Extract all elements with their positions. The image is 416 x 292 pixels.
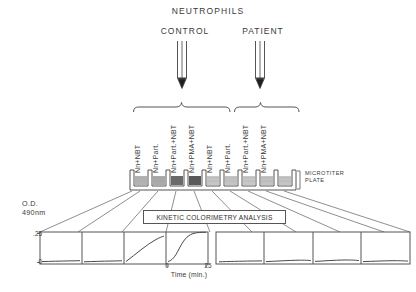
condition-label-patient-part: Nn+Part. bbox=[224, 144, 231, 173]
condition-label-control-pma-nbt: Nn+PMA+NBT bbox=[188, 125, 195, 173]
pipette-control bbox=[178, 41, 187, 89]
well-fill-control-2 bbox=[153, 176, 165, 185]
od-axis-line-2: 490nm bbox=[22, 209, 45, 218]
microtiter-plate-label: MICROTITER PLATE bbox=[305, 170, 344, 184]
plate-label-bracket bbox=[297, 171, 300, 189]
od-axis-label: O.D. 490nm bbox=[22, 200, 45, 217]
x-tick-label-25: 25 bbox=[201, 262, 215, 269]
well-fill-patient-1 bbox=[207, 176, 219, 185]
x-axis-title: Time (min.) bbox=[154, 271, 224, 278]
well-fill-control-3 bbox=[171, 176, 183, 185]
kinetic-box-label: KINETIC COLORIMETRY ANALYSIS bbox=[156, 214, 272, 221]
condition-label-control-part-nbt: Nn+Part.+NBT bbox=[170, 125, 177, 173]
panel-group-patient bbox=[216, 232, 410, 264]
panel-group-control bbox=[40, 232, 208, 264]
microtiter-plate bbox=[130, 170, 296, 190]
condition-label-control-part: Nn+Part. bbox=[152, 144, 159, 173]
plate-label-line-2: PLATE bbox=[305, 177, 344, 184]
y-tick-label-upper: .25 bbox=[24, 230, 42, 237]
plate-label-line-1: MICROTITER bbox=[305, 170, 344, 177]
pipette-patient bbox=[256, 41, 265, 89]
well-fill-control-1 bbox=[135, 176, 147, 185]
condition-label-patient-nbt: Nn+NBT bbox=[206, 145, 213, 173]
brace-control bbox=[134, 103, 231, 113]
well-fill-patient-3 bbox=[243, 176, 255, 185]
condition-label-patient-pma-nbt: Nn+PMA+NBT bbox=[260, 125, 267, 173]
well-fill-control-4 bbox=[189, 176, 201, 185]
well-fill-patient-2 bbox=[225, 176, 237, 185]
condition-label-control-nbt: Nn+NBT bbox=[134, 145, 141, 173]
well-fill-extra-1 bbox=[279, 176, 291, 185]
well-fill-patient-4 bbox=[261, 176, 273, 185]
condition-label-patient-part-nbt: Nn+Part.+NBT bbox=[242, 125, 249, 173]
brace-patient bbox=[235, 103, 300, 113]
figure-canvas: NEUTROPHILS CONTROL PATIENT bbox=[0, 0, 416, 292]
kinetic-colorimetry-analysis-box: KINETIC COLORIMETRY ANALYSIS bbox=[143, 210, 286, 224]
y-tick-label-lower: 0 bbox=[24, 258, 42, 265]
x-tick-label-0: 0 bbox=[160, 262, 174, 269]
